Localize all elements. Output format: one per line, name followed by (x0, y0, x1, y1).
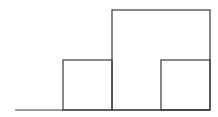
small-box-left (63, 60, 112, 110)
diagram-canvas (0, 0, 218, 117)
small-box-right (161, 60, 210, 110)
step-boxes-diagram (0, 0, 218, 117)
